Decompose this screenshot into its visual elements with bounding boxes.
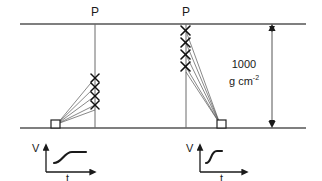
p-label-right: P [182, 6, 190, 18]
figure-canvas: P P 1000 g cm-2 V t V t [0, 0, 322, 181]
depth-unit-base: g cm [229, 75, 253, 87]
s-curve-steep-icon-right [206, 151, 222, 163]
depth-unit-exponent: -2 [253, 74, 259, 81]
time-axis-label-right: t [220, 173, 223, 181]
voltage-axis-label-right: V [186, 143, 193, 154]
time-axis-label-left: t [66, 173, 69, 181]
depth-unit-label: g cm-2 [222, 74, 266, 87]
ray-bundle-left [57, 78, 95, 124]
double-arrow-icon [268, 24, 275, 128]
detector-box-icon-right[interactable] [217, 120, 226, 128]
ray-bundle-right [186, 31, 220, 124]
inset-plot-left [46, 147, 93, 172]
diagram-svg [0, 0, 322, 181]
inset-plot-right [200, 147, 245, 172]
s-curve-icon-left [54, 152, 86, 163]
voltage-axis-label-left: V [32, 143, 39, 154]
p-label-left: P [91, 6, 99, 18]
depth-value-label: 1000 [222, 59, 266, 70]
detector-box-icon-left[interactable] [51, 120, 60, 128]
